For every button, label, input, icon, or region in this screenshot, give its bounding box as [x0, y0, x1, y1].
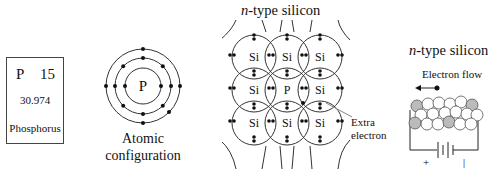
extra-electron-dot — [301, 101, 305, 105]
lattice-atom: Si — [249, 83, 260, 97]
atomic-number: 15 — [40, 66, 55, 83]
lattice-atom: Si — [315, 50, 326, 64]
arrow-left-icon — [415, 85, 421, 91]
annotation-line1: Extra — [351, 116, 386, 129]
circuit-diagram: + | — [405, 78, 493, 169]
lattice-atom: Si — [315, 83, 326, 97]
minus-terminal-label: | — [463, 157, 465, 168]
lattice-atom: Si — [249, 116, 260, 130]
lattice-title: n-type silicon — [241, 2, 320, 19]
atomic-model-caption: Atomic configuration — [95, 130, 191, 164]
caption-line2: configuration — [95, 147, 191, 164]
nucleus-label: P — [139, 78, 147, 94]
title-text: -type silicon — [416, 42, 488, 58]
element-card: P 15 30.974 Phosphorus — [6, 57, 64, 144]
title-text: -type silicon — [248, 2, 320, 18]
lattice-atom-dopant: P — [284, 83, 291, 97]
extra-electron-label: Extra electron — [351, 116, 386, 142]
lattice-atom: Si — [315, 116, 326, 130]
lattice-atom: Si — [249, 50, 260, 64]
atomic-mass: 30.974 — [7, 94, 63, 106]
lattice-atom: Si — [282, 116, 293, 130]
circuit-title: n-type silicon — [409, 42, 488, 59]
element-name: Phosphorus — [7, 122, 63, 134]
silicon-lattice-diagram: Si Si Si Si P Si Si Si Si — [222, 20, 352, 169]
annotation-line2: electron — [351, 129, 386, 142]
lattice-atom: Si — [282, 50, 293, 64]
caption-line1: Atomic — [95, 130, 191, 147]
electron-dot — [435, 86, 440, 91]
element-symbol: P — [16, 66, 24, 83]
plus-terminal-label: + — [423, 156, 429, 168]
